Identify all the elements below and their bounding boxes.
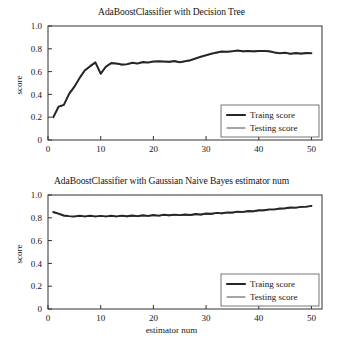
y-axis-tick-label: 0 — [38, 135, 43, 145]
plot-area-decision-tree: 0102030405000.20.40.60.81.0Traing scoreT… — [0, 0, 343, 169]
x-axis-tick-label: 0 — [46, 144, 51, 154]
chart-panel-gaussian-naive-bayes: AdaBoostClassifier with Gaussian Naive B… — [0, 169, 343, 338]
x-axis-tick-label: 40 — [254, 313, 264, 323]
x-axis-tick-label: 10 — [96, 313, 106, 323]
x-axis-tick-label: 30 — [202, 313, 212, 323]
x-axis-tick-label: 30 — [202, 144, 212, 154]
y-axis-tick-label: 1.0 — [31, 21, 43, 31]
figure-canvas: AdaBoostClassifier with Decision Tree sc… — [0, 0, 343, 338]
x-axis-tick-label: 40 — [254, 144, 264, 154]
x-axis-tick-label: 20 — [149, 313, 159, 323]
y-axis-tick-label: 0.6 — [31, 236, 43, 246]
legend-label-testing: Testing score — [250, 292, 298, 302]
x-axis-tick-label: 0 — [46, 313, 51, 323]
x-axis-tick-label: 50 — [307, 144, 317, 154]
y-axis-tick-label: 0.2 — [31, 112, 42, 122]
x-axis-tick-label: 20 — [149, 144, 159, 154]
legend-label-testing: Testing score — [250, 123, 298, 133]
y-axis-tick-label: 0.8 — [31, 213, 43, 223]
y-axis-tick-label: 1.0 — [31, 190, 43, 200]
y-axis-tick-label: 0 — [38, 304, 43, 314]
y-axis-tick-label: 0.8 — [31, 44, 43, 54]
legend-label-training: Traing score — [250, 279, 295, 289]
x-axis-tick-label: 10 — [96, 144, 106, 154]
x-axis-tick-label: 50 — [307, 313, 317, 323]
y-axis-tick-label: 0.6 — [31, 67, 43, 77]
chart-panel-decision-tree: AdaBoostClassifier with Decision Tree sc… — [0, 0, 343, 169]
y-axis-tick-label: 0.2 — [31, 281, 42, 291]
plot-area-gaussian-naive-bayes: 0102030405000.20.40.60.81.0Traing scoreT… — [0, 169, 343, 338]
y-axis-tick-label: 0.4 — [31, 90, 43, 100]
legend-label-training: Traing score — [250, 110, 295, 120]
y-axis-tick-label: 0.4 — [31, 259, 43, 269]
series-line-training — [53, 206, 311, 217]
